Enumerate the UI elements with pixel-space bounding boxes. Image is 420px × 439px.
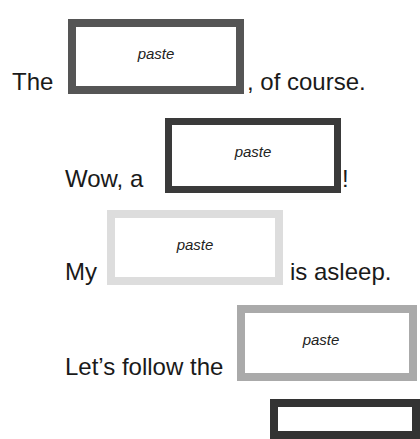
sentence-2-before: Wow, a [65,167,143,191]
paste-slot-label: paste [172,143,334,160]
sentence-1-after: , of course. [247,70,366,94]
sentence-3-after: is asleep. [290,260,391,284]
sentence-2-after: ! [342,167,349,191]
paste-slot-2[interactable]: paste [165,118,341,193]
paste-slot-label: paste [245,331,397,348]
sentence-3-before: My [65,260,97,284]
paste-slot-3[interactable]: paste [107,210,283,285]
paste-slot-5[interactable] [270,399,420,439]
paste-slot-1[interactable]: paste [68,19,244,94]
sentence-1-before: The [12,70,53,94]
paste-slot-label: paste [115,236,275,253]
sentence-4-before: Let’s follow the [65,355,223,379]
paste-slot-label: paste [76,45,236,62]
paste-slot-4[interactable]: paste [237,305,417,381]
